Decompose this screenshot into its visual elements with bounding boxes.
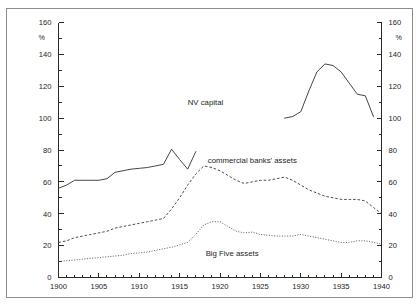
y-axis-left-label-40: 40 [43, 210, 51, 219]
x-axis-label-1905: 1905 [90, 282, 107, 291]
y-axis-left-label-160: 160 [39, 18, 52, 27]
chart-plot-area: 0020204040606080801001001201201401401601… [0, 0, 420, 305]
series-line-1 [59, 166, 382, 243]
x-axis-label-1925: 1925 [252, 282, 269, 291]
x-axis-label-1900: 1900 [50, 282, 67, 291]
y-axis-left-label-80: 80 [43, 146, 51, 155]
series-annotations-group: NV capitalcommercial banks' assetsBig Fi… [188, 98, 297, 258]
axes-group [59, 23, 382, 278]
y-axis-left-label-20: 20 [43, 241, 51, 250]
x-axis-label-1920: 1920 [212, 282, 229, 291]
x-axis-label-1940: 1940 [373, 282, 390, 291]
x-axis-label-1935: 1935 [333, 282, 350, 291]
annotation-2: Big Five assets [206, 249, 259, 258]
y-axis-left-label-120: 120 [39, 82, 52, 91]
series-line-0 [285, 64, 374, 118]
annotation-0: NV capital [188, 98, 224, 107]
y-axis-left-unit: % [39, 33, 46, 42]
y-axis-right-label-140: 140 [389, 50, 402, 59]
series-line-3 [59, 149, 196, 188]
y-axis-right-label-120: 120 [389, 82, 402, 91]
x-axis-label-1910: 1910 [131, 282, 148, 291]
x-axis-label-1915: 1915 [171, 282, 188, 291]
y-axis-right-label-80: 80 [389, 146, 397, 155]
y-axis-right-unit: % [396, 33, 403, 42]
y-axis-right-label-20: 20 [389, 241, 397, 250]
annotation-1: commercial banks' assets [208, 156, 297, 165]
y-axis-right-label-160: 160 [389, 18, 402, 27]
y-axis-right-label-100: 100 [389, 114, 402, 123]
y-axis-left-label-100: 100 [39, 114, 52, 123]
y-axis-right-label-40: 40 [389, 210, 397, 219]
y-axis-right-label-60: 60 [389, 178, 397, 187]
y-axis-left-label-60: 60 [43, 178, 51, 187]
x-axis-label-1930: 1930 [292, 282, 309, 291]
chart-figure: 0020204040606080801001001201201401401601… [0, 0, 420, 305]
y-axis-left-label-140: 140 [39, 50, 52, 59]
